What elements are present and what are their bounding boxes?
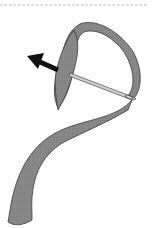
ribbon-front-flap: [55, 30, 78, 110]
arrow-pull-left-icon: [27, 53, 58, 70]
needle: [69, 73, 136, 100]
ribbon-tail: [8, 100, 132, 225]
ribbon-needle-illustration: [0, 0, 160, 228]
